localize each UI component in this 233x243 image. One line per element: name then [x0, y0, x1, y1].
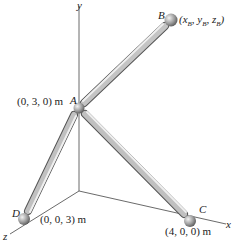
joint-b	[165, 14, 178, 27]
y-axis-label: y	[77, 0, 82, 11]
point-c-coord: (4, 0, 0) m	[165, 226, 211, 237]
tripod-diagram: y x z B (xB, yB, zB) A (0, 3, 0) m C (4,…	[0, 0, 233, 243]
point-d-coord: (0, 0, 3) m	[40, 214, 86, 225]
member-ab	[83, 24, 165, 103]
x-axis-label: x	[226, 219, 231, 230]
axes	[10, 6, 226, 234]
point-a-label: A	[70, 95, 77, 106]
point-a-coord: (0, 3, 0) m	[17, 96, 63, 107]
z-axis-label: z	[3, 231, 7, 242]
point-d-label: D	[12, 208, 20, 219]
point-c-label: C	[199, 204, 206, 215]
point-b-coord: (xB, yB, zB)	[179, 14, 224, 28]
point-b-label: B	[158, 10, 165, 21]
member-ac	[85, 112, 186, 214]
